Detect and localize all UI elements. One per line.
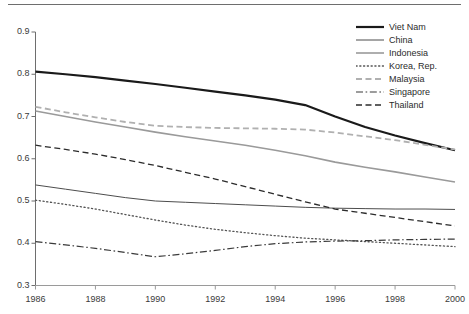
legend-swatch-singapore [356,86,384,98]
series-line-indonesia [36,111,456,182]
y-tick-label: 0.4 [8,237,30,247]
y-tick-label: 0.9 [8,26,30,36]
legend-swatch-thailand [356,99,384,111]
y-tick-label: 0.6 [8,153,30,163]
x-tick-label: 1994 [258,294,292,304]
y-tick-label: 0.3 [8,280,30,290]
y-tick-label: 0.8 [8,68,30,78]
legend-item-malaysia[interactable]: Malaysia [356,72,466,85]
legend-label: China [384,35,413,45]
x-tick-label: 1992 [198,294,232,304]
legend-label: Malaysia [384,74,425,84]
legend-swatch-malaysia [356,73,384,85]
series-line-singapore [36,239,456,257]
chart-legend: Viet NamChinaIndonesiaKorea, Rep.Malaysi… [356,20,466,111]
legend-label: Thailand [384,100,424,110]
x-tick-marks [36,286,456,290]
legend-item-singapore[interactable]: Singapore [356,85,466,98]
legend-item-thailand[interactable]: Thailand [356,98,466,111]
y-tick-label: 0.7 [8,111,30,121]
y-tick-label: 0.5 [8,195,30,205]
series-line-korea-rep [36,200,456,246]
y-tick-marks [32,32,36,286]
series-line-malaysia [36,107,456,150]
x-tick-label: 1998 [378,294,412,304]
x-tick-label: 1996 [318,294,352,304]
series-line-china [36,185,456,210]
legend-item-korea-rep[interactable]: Korea, Rep. [356,59,466,72]
x-tick-label: 2000 [438,294,469,304]
x-tick-label: 1986 [19,294,53,304]
legend-item-china[interactable]: China [356,33,466,46]
x-tick-label: 1988 [78,294,112,304]
legend-label: Korea, Rep. [384,61,437,71]
legend-swatch-indonesia [356,47,384,59]
legend-swatch-viet-nam [356,21,384,33]
chart-figure: 0.90.80.70.60.50.40.3 198619881990199219… [0,0,469,314]
legend-swatch-china [356,34,384,46]
x-tick-label: 1990 [138,294,172,304]
legend-label: Indonesia [384,48,428,58]
legend-swatch-korea-rep [356,60,384,72]
legend-label: Viet Nam [384,22,426,32]
legend-item-viet-nam[interactable]: Viet Nam [356,20,466,33]
legend-item-indonesia[interactable]: Indonesia [356,46,466,59]
series-line-thailand [36,145,456,226]
legend-label: Singapore [384,87,430,97]
